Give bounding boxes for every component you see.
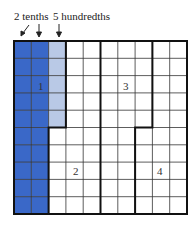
arrow-icons [21, 24, 62, 37]
region-3-label: 3 [123, 80, 129, 92]
tenths-cell [14, 110, 31, 127]
region-border [135, 41, 152, 214]
hundredths-cell [49, 110, 66, 127]
tenths-cell [14, 76, 31, 93]
tenths-cell [14, 162, 31, 179]
tenths-cell [31, 179, 48, 196]
tenths-cell [14, 93, 31, 110]
hundred-grid [0, 0, 196, 226]
tenths-cell [14, 41, 31, 58]
hundredths-cell [49, 41, 66, 58]
tenths-cell [31, 162, 48, 179]
tenths-cell [14, 179, 31, 196]
tenths-cell [31, 110, 48, 127]
tenths-cell [14, 58, 31, 75]
tenths-cell [31, 128, 48, 145]
region-2-label: 2 [73, 165, 79, 177]
tenths-cell [14, 197, 31, 214]
tenths-cell [14, 145, 31, 162]
region-1-label: 1 [38, 80, 44, 92]
tenths-cell [31, 145, 48, 162]
hundredths-cell [49, 76, 66, 93]
tenths-cell [31, 93, 48, 110]
region-4-label: 4 [157, 165, 163, 177]
tenths-cell [31, 197, 48, 214]
hundredths-cell [49, 58, 66, 75]
tenths-cell [31, 41, 48, 58]
hundredths-cell [49, 93, 66, 110]
tenths-cell [31, 58, 48, 75]
tenths-cell [14, 128, 31, 145]
